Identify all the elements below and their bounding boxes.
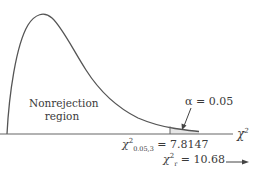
alpha-label: α = 0.05 <box>185 96 233 107</box>
critical-value-label: χ20.05,3 = 7.8147 <box>122 139 209 150</box>
region-label-line1: Nonrejection <box>29 97 95 110</box>
statistic-symbol: χ <box>163 153 170 166</box>
right-arrowhead-icon <box>242 160 249 165</box>
region-label-line2: region <box>29 110 95 123</box>
critical-symbol: χ <box>122 138 129 151</box>
alpha-arrowhead-icon <box>182 124 187 131</box>
critical-subscript: 0.05,3 <box>133 145 154 153</box>
alpha-pointer <box>184 108 191 126</box>
test-statistic-label: χ2r = 10.68 <box>163 154 225 165</box>
statistic-value: = 10.68 <box>177 153 225 166</box>
x-axis-label: χ2 <box>237 128 249 140</box>
nonrejection-region-label: Nonrejection region <box>29 97 95 123</box>
axis-superscript: 2 <box>244 127 248 135</box>
critical-value: = 7.8147 <box>154 138 209 151</box>
